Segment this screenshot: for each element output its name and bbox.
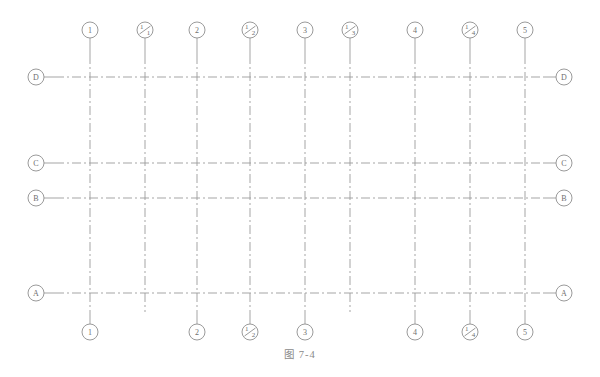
axis-line-group — [55, 55, 545, 312]
axis-bubble-right-hB-label: B — [561, 194, 566, 203]
axis-bubble-top-v6-numerator: 1 — [345, 23, 349, 31]
axis-bubble-bottom-v9-label: 5 — [523, 328, 527, 337]
figure-caption: 图 7-4 — [0, 346, 600, 361]
axis-bubble-bottom-v3-label: 2 — [195, 328, 199, 337]
axis-bubble-bottom-v4-denominator: 2 — [252, 331, 256, 339]
axis-bubble-right-hA-label: A — [561, 289, 567, 298]
axis-bubble-right-hD-label: D — [561, 73, 567, 82]
axis-bubble-bottom-v5-label: 3 — [303, 328, 307, 337]
axis-bubble-bottom-v8-denominator: 4 — [472, 331, 476, 339]
axis-bubble-top-v8-denominator: 4 — [472, 29, 476, 37]
axis-bubble-top-v4-numerator: 1 — [245, 23, 249, 31]
axis-bubble-top-v3-label: 2 — [195, 26, 199, 35]
axis-bubble-top-v4-denominator: 2 — [252, 29, 256, 37]
axis-bubble-top-v2-denominator: 1 — [147, 29, 151, 37]
column-grid-drawing: 1112123134145121234145DCBADCBA — [0, 0, 600, 377]
axis-bubble-bottom-v4-numerator: 1 — [245, 325, 249, 333]
axis-bubble-top-v6-denominator: 3 — [352, 29, 356, 37]
figure-canvas: 1112123134145121234145DCBADCBA 图 7-4 — [0, 0, 600, 377]
axis-bubble-top-v8-numerator: 1 — [465, 23, 469, 31]
axis-bubble-group: 1112123134145121234145DCBADCBA — [28, 22, 572, 340]
axis-bubble-right-hC-label: C — [561, 159, 566, 168]
axis-bubble-left-hB-label: B — [33, 194, 38, 203]
axis-bubble-top-v5-label: 3 — [303, 26, 307, 35]
axis-bubble-left-hC-label: C — [33, 159, 38, 168]
axis-bubble-left-hA-label: A — [33, 289, 39, 298]
axis-bubble-top-v2-numerator: 1 — [140, 23, 144, 31]
axis-bubble-bottom-v8-numerator: 1 — [465, 325, 469, 333]
axis-bubble-top-v7-label: 4 — [413, 26, 417, 35]
axis-bubble-left-hD-label: D — [33, 73, 39, 82]
leader-line-group — [44, 38, 556, 324]
axis-bubble-bottom-v1-label: 1 — [88, 328, 92, 337]
axis-bubble-top-v1-label: 1 — [88, 26, 92, 35]
axis-bubble-bottom-v7-label: 4 — [413, 328, 417, 337]
axis-bubble-top-v9-label: 5 — [523, 26, 527, 35]
